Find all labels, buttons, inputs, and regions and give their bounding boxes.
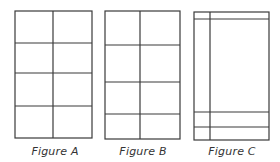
figure-a-diagram xyxy=(15,11,92,138)
figure-border xyxy=(194,12,269,140)
figure-b-diagram xyxy=(105,11,180,139)
figure-c-label: Figure C xyxy=(192,145,272,158)
figure-c-diagram xyxy=(194,12,269,140)
figure-border xyxy=(105,11,180,139)
figure-b-label: Figure B xyxy=(103,145,183,158)
figures-canvas xyxy=(0,0,280,162)
figure-a-label: Figure A xyxy=(15,145,95,158)
